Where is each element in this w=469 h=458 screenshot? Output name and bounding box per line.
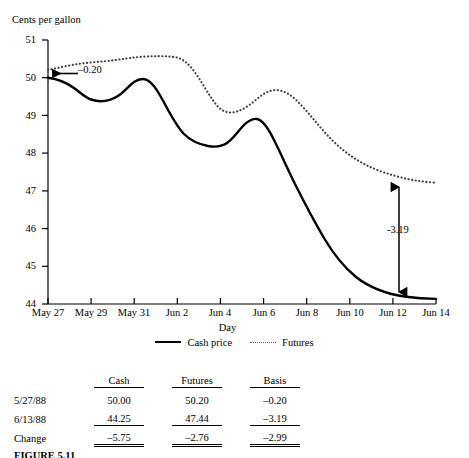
cell-value: –5.75 — [94, 432, 144, 445]
y-tick-label: 51 — [14, 34, 36, 45]
table-col-header-futures: Futures — [158, 372, 236, 391]
cell-value: 47.44 — [172, 413, 222, 426]
axis-lines — [48, 40, 436, 304]
table-header-row: Cash Futures Basis — [14, 372, 314, 391]
cell-value: –2.99 — [250, 432, 300, 445]
cell-basis: –0.20 — [236, 391, 314, 410]
col-header-cash-label: Cash — [94, 375, 144, 388]
y-tick-label: 48 — [14, 147, 36, 158]
row-label: Change — [14, 429, 80, 448]
series-futures-line — [48, 56, 436, 183]
y-tick-label: 50 — [14, 72, 36, 83]
cell-cash: 50.00 — [80, 391, 158, 410]
table-corner-cell — [14, 372, 80, 391]
cell-futures: 50.20 — [158, 391, 236, 410]
cell-basis: –2.99 — [236, 429, 314, 448]
row-label: 6/13/88 — [14, 410, 80, 429]
table-row: Change –5.75 –2.76 –2.99 — [14, 429, 314, 448]
cell-cash: –5.75 — [80, 429, 158, 448]
cell-futures: 47.44 — [158, 410, 236, 429]
col-header-basis-label: Basis — [250, 375, 300, 388]
table-col-header-basis: Basis — [236, 372, 314, 391]
chart-legend: Cash price Futures — [0, 337, 469, 348]
legend-entry-futures: Futures — [250, 337, 314, 348]
legend-line-dotted-icon — [250, 338, 276, 347]
cell-futures: –2.76 — [158, 429, 236, 448]
y-axis-ticks — [42, 40, 48, 304]
y-tick-label: 47 — [14, 185, 36, 196]
x-axis-title-wrap: Day — [0, 322, 469, 333]
cell-basis: –3.19 — [236, 410, 314, 429]
x-tick-label: Jun 14 — [406, 307, 466, 318]
cell-value: 50.20 — [172, 395, 222, 407]
cell-value: –0.20 — [250, 395, 300, 407]
y-tick-label: 45 — [14, 260, 36, 271]
y-tick-label: 46 — [14, 223, 36, 234]
legend-label-futures: Futures — [282, 337, 314, 348]
annotation-basis-start: –0.20 — [78, 64, 102, 75]
row-label: 5/27/88 — [14, 391, 80, 410]
cell-value: 50.00 — [94, 395, 144, 407]
legend-label-cash-price: Cash price — [187, 337, 232, 348]
cell-value: –2.76 — [172, 432, 222, 445]
col-header-futures-label: Futures — [172, 375, 222, 388]
table-row: 6/13/88 44.25 47.44 –3.19 — [14, 410, 314, 429]
cell-value: –3.19 — [250, 413, 300, 426]
series-cash-price-line — [48, 78, 436, 299]
basis-data-table: Cash Futures Basis 5/27/88 50.00 50.20 — [14, 372, 314, 448]
figure-basis-chart: Cents per gallon — [0, 0, 469, 458]
x-axis-ticks — [48, 298, 436, 304]
figure-caption: FIGURE 5.11 — [14, 450, 75, 458]
table-col-header-cash: Cash — [80, 372, 158, 391]
legend-line-solid-icon — [155, 338, 181, 347]
x-axis-title: Day — [219, 322, 237, 333]
table-row: 5/27/88 50.00 50.20 –0.20 — [14, 391, 314, 410]
y-tick-label: 49 — [14, 110, 36, 121]
cell-cash: 44.25 — [80, 410, 158, 429]
legend-entry-cash-price: Cash price — [155, 337, 232, 348]
annotation-basis-end: -3.19 — [387, 224, 409, 235]
cell-value: 44.25 — [94, 413, 144, 426]
plot-area — [0, 0, 469, 320]
